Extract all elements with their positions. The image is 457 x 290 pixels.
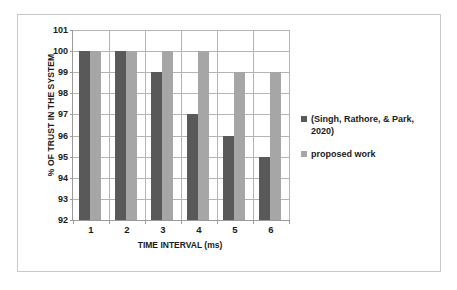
bar-group — [109, 30, 145, 220]
bar[interactable] — [223, 136, 234, 220]
bar[interactable] — [90, 51, 101, 220]
bar-group — [253, 30, 289, 220]
x-axis-title: TIME INTERVAL (ms) — [72, 240, 288, 250]
y-tick-label: 96 — [58, 131, 68, 141]
x-tick-label: 4 — [181, 224, 217, 235]
y-tick-label: 99 — [58, 67, 68, 77]
plot-right-edge — [289, 30, 290, 220]
y-tick-label: 95 — [58, 152, 68, 162]
bar[interactable] — [162, 51, 173, 220]
legend-entry[interactable]: (Singh, Rathore, & Park, 2020) — [301, 113, 433, 137]
bar[interactable] — [79, 51, 90, 220]
legend-label: (Singh, Rathore, & Park, 2020) — [311, 113, 433, 137]
bar-group — [73, 30, 109, 220]
y-tick-label: 100 — [53, 46, 68, 56]
plot-area: 1011009998979695949392 123456 — [72, 30, 289, 221]
y-axis-title: % OF TRUST IN THE SYSTEM — [46, 35, 56, 195]
y-tick-label: 98 — [58, 88, 68, 98]
bar[interactable] — [151, 72, 162, 220]
bar[interactable] — [259, 157, 270, 220]
chart-figure: % OF TRUST IN THE SYSTEM 101100999897969… — [17, 14, 441, 272]
x-tick-label: 6 — [253, 224, 289, 235]
y-tick-label: 93 — [58, 194, 68, 204]
bar[interactable] — [234, 72, 245, 220]
bar[interactable] — [198, 51, 209, 220]
bar-group — [181, 30, 217, 220]
legend-swatch-icon — [301, 116, 307, 122]
bar[interactable] — [187, 114, 198, 220]
chart-legend: (Singh, Rathore, & Park, 2020)proposed w… — [301, 113, 433, 171]
y-tick-label: 101 — [53, 25, 68, 35]
bar[interactable] — [126, 51, 137, 220]
y-tick-label: 94 — [58, 173, 68, 183]
x-tick-label: 5 — [217, 224, 253, 235]
legend-label: proposed work — [311, 148, 376, 160]
x-tick-label: 2 — [109, 224, 145, 235]
y-tick-label: 92 — [58, 215, 68, 225]
legend-entry[interactable]: proposed work — [301, 148, 433, 160]
x-tick-label: 3 — [145, 224, 181, 235]
bar[interactable] — [270, 72, 281, 220]
x-tick-mark — [289, 220, 290, 224]
bar[interactable] — [115, 51, 126, 220]
bar-group — [145, 30, 181, 220]
y-tick-label: 97 — [58, 109, 68, 119]
x-tick-mark — [73, 220, 74, 224]
legend-swatch-icon — [301, 151, 307, 157]
bar-group — [217, 30, 253, 220]
x-tick-label: 1 — [73, 224, 109, 235]
